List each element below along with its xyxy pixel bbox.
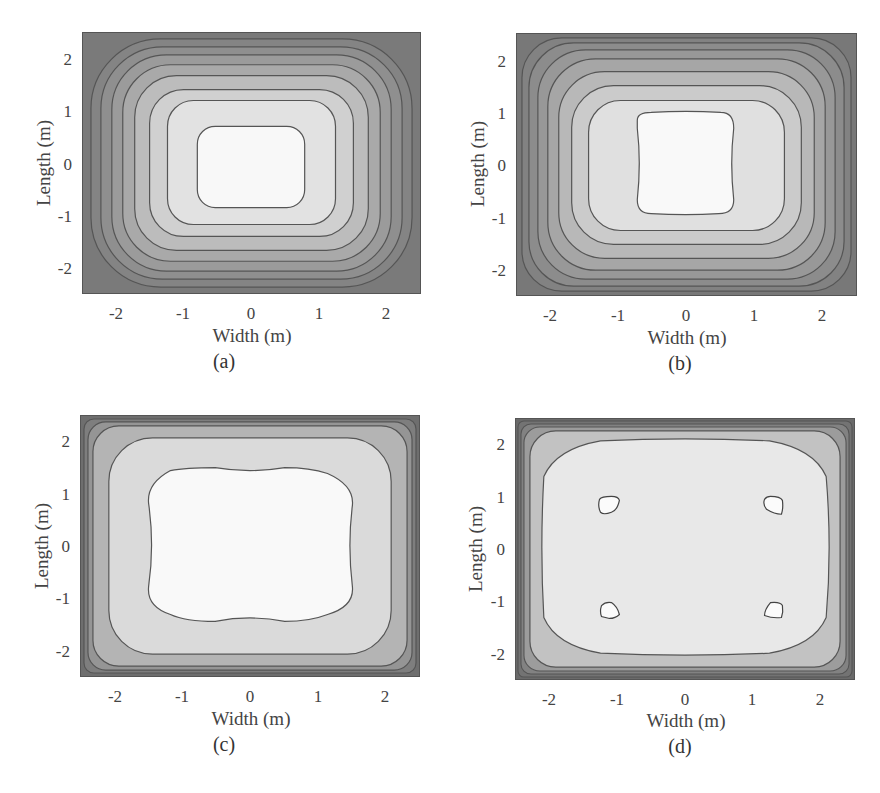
contour-graphic-c (81, 416, 419, 676)
y-axis-label: Length (m) (31, 496, 53, 596)
y-tick: -2 (50, 260, 72, 277)
panel-caption: (d) (668, 735, 691, 758)
y-axis-label: Length (m) (465, 499, 487, 599)
contour-plot-c (80, 415, 420, 677)
contour-graphic-b (517, 34, 856, 295)
x-axis-label: Width (m) (213, 325, 292, 347)
contour-plot-a (82, 32, 421, 294)
x-tick: 2 (816, 691, 825, 708)
x-tick: 1 (750, 307, 759, 324)
x-tick: 1 (314, 688, 323, 705)
x-axis-label: Width (m) (647, 710, 726, 732)
x-tick: -2 (109, 305, 123, 322)
x-axis-label: Width (m) (212, 708, 291, 730)
y-tick: -2 (484, 262, 506, 279)
panel-caption: (a) (213, 350, 235, 373)
x-tick: 0 (246, 688, 255, 705)
x-tick: -2 (543, 307, 557, 324)
x-tick: -1 (610, 691, 624, 708)
x-tick: -1 (175, 688, 189, 705)
contour-plot-b (516, 33, 857, 296)
x-axis-label: Width (m) (648, 327, 727, 349)
y-tick: -2 (483, 646, 505, 663)
y-axis-label: Length (m) (467, 114, 489, 214)
x-tick: -1 (611, 307, 625, 324)
contour-graphic-a (83, 33, 420, 293)
contour-graphic-d (516, 419, 854, 679)
x-tick: -2 (108, 688, 122, 705)
panel-caption: (b) (668, 352, 691, 375)
y-axis-label: Length (m) (33, 113, 55, 213)
x-tick: -2 (542, 691, 556, 708)
y-tick: 2 (48, 433, 70, 450)
y-tick: 2 (483, 436, 505, 453)
x-tick: 0 (681, 691, 690, 708)
x-tick: 1 (748, 691, 757, 708)
contour-plot-d (515, 418, 855, 680)
y-tick: -2 (48, 643, 70, 660)
x-tick: 2 (818, 307, 827, 324)
y-tick: 2 (50, 51, 72, 68)
x-tick: 2 (382, 305, 391, 322)
x-tick: 2 (381, 688, 390, 705)
y-tick: 2 (484, 53, 506, 70)
x-tick: 1 (315, 305, 324, 322)
x-tick: 0 (682, 307, 691, 324)
panel-caption: (c) (213, 733, 235, 756)
x-tick: 0 (247, 305, 256, 322)
x-tick: -1 (176, 305, 190, 322)
